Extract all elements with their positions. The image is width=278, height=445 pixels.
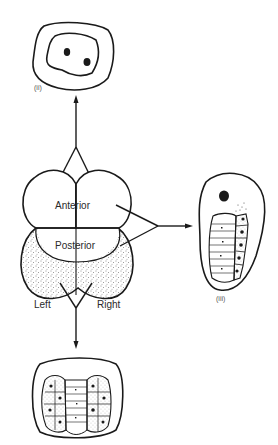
- outcome-bottom-drawing: [33, 358, 123, 438]
- label-ii: (ii): [34, 84, 42, 91]
- outcome-ii-drawing: [33, 23, 114, 90]
- label-posterior: Posterior: [55, 240, 95, 251]
- outcome-iii-drawing: [199, 173, 265, 290]
- diagram-canvas: (ii) Anterior Posterior Left Right (iii): [0, 0, 278, 445]
- arrow-to-ii: [58, 95, 93, 182]
- label-anterior: Anterior: [55, 200, 90, 211]
- central-embryo: [21, 170, 133, 298]
- label-left: Left: [34, 299, 51, 310]
- embryo-diagram: [0, 0, 278, 445]
- label-right: Right: [97, 299, 120, 310]
- label-iii: (iii): [216, 295, 225, 302]
